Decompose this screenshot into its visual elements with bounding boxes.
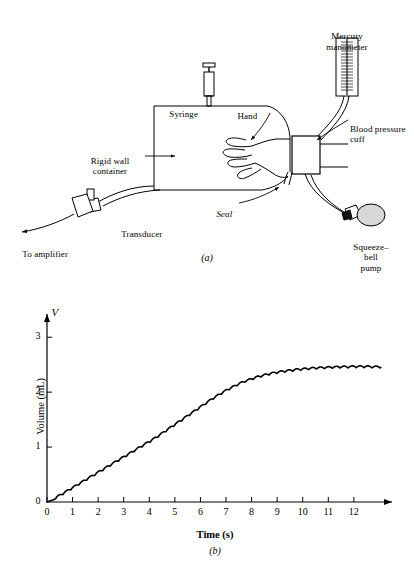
x-tick-label: 7 <box>224 506 229 517</box>
y-axis-label: Volume (mL) <box>24 378 57 445</box>
figure-root: Mercury manometer Syringe Hand Blood pre… <box>0 0 414 570</box>
x-tick-label: 3 <box>121 506 126 517</box>
volume-time-chart <box>0 0 414 570</box>
x-tick-label: 8 <box>249 506 254 517</box>
x-axis-label: Time (s) <box>197 529 234 540</box>
volume-curve <box>47 366 381 502</box>
x-tick-label: 0 <box>45 506 50 517</box>
y-tick-label: 0 <box>36 495 41 506</box>
chart-axes <box>47 314 392 502</box>
x-tick-label: 4 <box>147 506 152 517</box>
y-axis-symbol: V <box>40 296 58 328</box>
y-tick-label: 3 <box>36 330 41 341</box>
x-tick-label: 11 <box>323 506 333 517</box>
x-tick-label: 6 <box>198 506 203 517</box>
x-axis-ticks <box>47 497 354 502</box>
caption-panel-b: (b) <box>209 545 221 556</box>
x-tick-label: 1 <box>70 506 75 517</box>
x-tick-label: 5 <box>172 506 177 517</box>
x-tick-label: 12 <box>349 506 359 517</box>
x-tick-label: 2 <box>96 506 101 517</box>
x-tick-label: 10 <box>298 506 308 517</box>
x-tick-label: 9 <box>275 506 280 517</box>
